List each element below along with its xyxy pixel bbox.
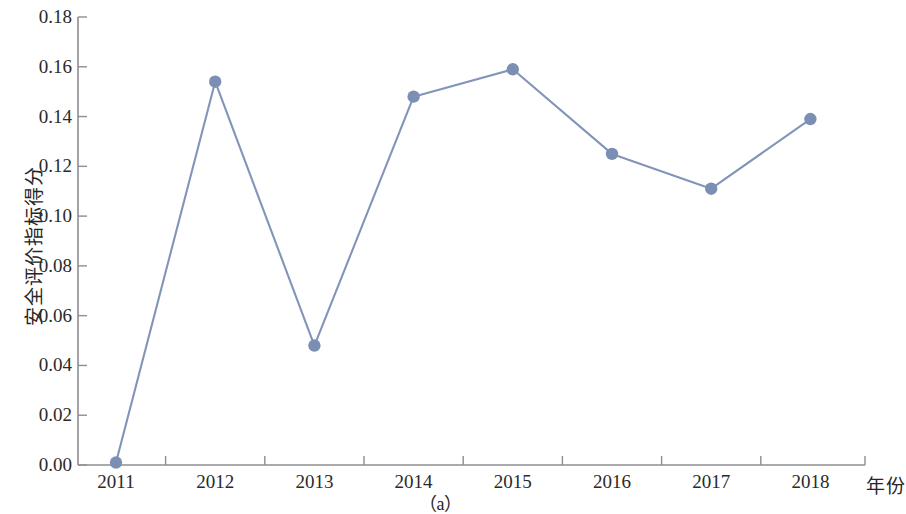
figure-caption: （a） bbox=[0, 489, 899, 514]
figure-caption-text: （a） bbox=[419, 489, 463, 514]
